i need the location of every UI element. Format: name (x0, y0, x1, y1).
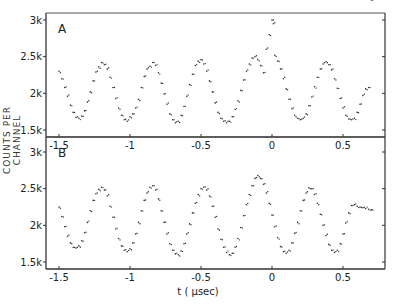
x-tick-label: -0.5 (191, 140, 211, 151)
x-axis-label: t ( μsec) (0, 286, 396, 297)
x-tick-label: -1 (125, 140, 135, 151)
data-points (58, 175, 373, 257)
x-tick-label: -1 (125, 272, 135, 283)
panel-label: B (58, 146, 66, 160)
x-tick-label: 0.5 (335, 140, 351, 151)
x-tick-label: 0.5 (335, 272, 351, 283)
x-tick-label: 0 (269, 272, 275, 283)
y-axis-label: COUNTS PER CHANNEL (2, 90, 22, 190)
y-tick-label: 1.5k (20, 257, 42, 268)
x-tick-label: -0.5 (191, 272, 211, 283)
panel-b: 1.5k2k2.5k3k-1.5-1-0.500.5B (20, 137, 385, 283)
chart-figure: 1.5k2k2.5k3k-1.5-1-0.500.5A 1.5k2k2.5k3k… (0, 0, 396, 305)
y-tick-label: 2.5k (20, 183, 42, 194)
y-tick-label: 3k (30, 147, 42, 158)
y-tick-label: 3k (30, 15, 42, 26)
panel-label: A (58, 22, 67, 36)
data-points (58, 0, 373, 124)
y-tick-label: 2k (30, 88, 42, 99)
y-tick-label: 2k (30, 220, 42, 231)
x-tick-label: -1.5 (49, 272, 69, 283)
y-tick-label: 2.5k (20, 51, 42, 62)
x-tick-label: 0 (269, 140, 275, 151)
panel-a: 1.5k2k2.5k3k-1.5-1-0.500.5A (20, 0, 385, 151)
y-tick-label: 1.5k (20, 125, 42, 136)
